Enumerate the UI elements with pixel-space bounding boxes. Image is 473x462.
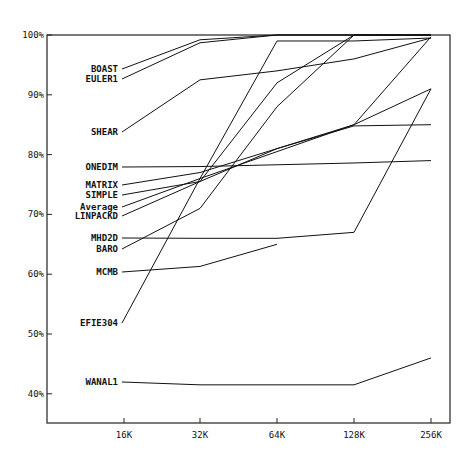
series-line-mhd2d: [122, 89, 431, 239]
x-tick-label: 256K: [420, 430, 442, 440]
series-label-baro: BARO: [96, 244, 118, 254]
series-line-simple: [122, 89, 431, 195]
x-tick-label: 16K: [116, 430, 133, 440]
series-label-mcmb: MCMB: [96, 267, 118, 277]
series-label-wanal1: WANAL1: [85, 377, 118, 387]
series-lines: [122, 35, 431, 385]
series-label-matrix: MATRIX: [85, 180, 118, 190]
y-tick-label: 100%: [22, 30, 44, 40]
series-label-simple: SIMPLE: [85, 190, 118, 200]
line-chart: 100%90%80%70%60%50%40%16K32K64K128K256K …: [0, 0, 473, 462]
series-line-efie304: [122, 38, 431, 323]
x-tick-label: 32K: [192, 430, 209, 440]
series-label-onedim: ONEDIM: [85, 162, 118, 172]
series-line-baro: [122, 35, 431, 249]
y-tick-label: 70%: [28, 209, 45, 219]
series-labels: BOASTEULER1SHEARONEDIMMATRIXSIMPLEAverag…: [75, 64, 119, 387]
x-tick-label: 64K: [269, 430, 286, 440]
x-tick-label: 128K: [343, 430, 365, 440]
series-line-mcmb: [122, 244, 277, 272]
series-label-mhd2d: MHD2D: [91, 233, 119, 243]
y-tick-label: 40%: [28, 389, 45, 399]
y-tick-label: 80%: [28, 150, 45, 160]
y-tick-label: 90%: [28, 90, 45, 100]
series-label-euler1: EULER1: [85, 74, 118, 84]
series-label-efie304: EFIE304: [80, 318, 119, 328]
series-label-boast: BOAST: [91, 64, 119, 74]
series-line-wanal1: [122, 358, 431, 385]
series-line-onedim: [122, 161, 431, 167]
series-label-linpackd: LINPACKD: [75, 211, 119, 221]
plot-frame: [47, 35, 450, 423]
series-label-shear: SHEAR: [91, 127, 119, 137]
y-tick-label: 60%: [28, 269, 45, 279]
series-line-average: [122, 37, 431, 207]
y-tick-label: 50%: [28, 329, 45, 339]
